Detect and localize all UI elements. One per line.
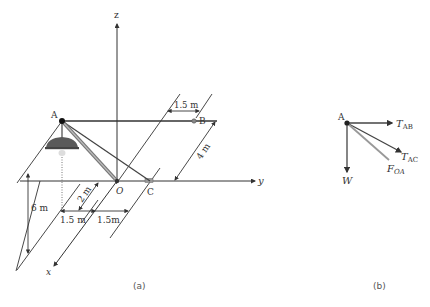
plane-x-parallel bbox=[17, 184, 80, 270]
cable-ac bbox=[62, 121, 150, 181]
x-axis-label: x bbox=[46, 267, 51, 277]
fbd-point-a-label: A bbox=[337, 112, 345, 122]
z-axis-label: z bbox=[114, 10, 119, 20]
point-c-label: C bbox=[147, 187, 154, 197]
y-axis-label: y bbox=[257, 175, 264, 186]
origin-point bbox=[115, 179, 119, 183]
dim-left-1-5m-label: 1.5 m bbox=[60, 215, 86, 225]
origin-label: O bbox=[116, 186, 124, 196]
label-t-ac: TAC bbox=[401, 151, 418, 164]
label-w: W bbox=[342, 175, 353, 186]
point-b-anchor bbox=[192, 119, 196, 123]
figure-a: z y x 4 m 1.5 m B C bbox=[16, 10, 264, 291]
wall-line-right bbox=[196, 94, 212, 118]
wall-line-left bbox=[116, 94, 180, 184]
dim-4m-label: 4 m bbox=[194, 141, 212, 161]
point-b-label: B bbox=[199, 116, 206, 126]
caption-a: (a) bbox=[133, 281, 146, 291]
label-t-ab: TAB bbox=[396, 118, 413, 131]
dim-ab-offset-label: 1.5 m bbox=[174, 100, 198, 110]
dim-6m-label: 6 m bbox=[31, 203, 49, 213]
point-a-label: A bbox=[50, 110, 58, 120]
strut-oa-inner bbox=[62, 121, 117, 181]
label-f-oa: FOA bbox=[386, 163, 405, 176]
dim-right-1-5m-label: 1.5m bbox=[97, 215, 120, 225]
caption-b: (b) bbox=[373, 281, 386, 291]
figure-b: A TAB TAC FOA W (b) bbox=[337, 112, 418, 291]
fbd-point-a bbox=[344, 120, 349, 125]
point-a bbox=[59, 118, 65, 124]
plane-left-edge bbox=[17, 121, 62, 183]
figure-canvas: z y x 4 m 1.5 m B C bbox=[0, 0, 430, 307]
